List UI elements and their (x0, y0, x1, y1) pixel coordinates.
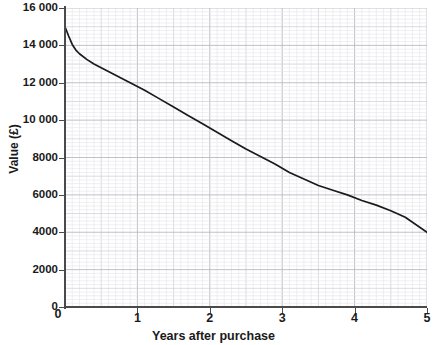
plot-area (65, 8, 427, 307)
x-axis-title: Years after purchase (0, 329, 427, 343)
y-tick-mark (59, 83, 65, 84)
grid-lines (65, 8, 427, 307)
y-tick-label: 6000 (2, 189, 58, 201)
y-tick-label: 4000 (2, 226, 58, 238)
x-tick-label: 5 (417, 312, 435, 325)
y-tick-label: 16 000 (2, 2, 58, 14)
x-tick-label: 4 (345, 312, 365, 325)
y-tick-mark (59, 158, 65, 159)
y-tick-label: 2000 (2, 264, 58, 276)
y-axis-title: Value (£) (7, 109, 21, 189)
y-tick-mark (59, 195, 65, 196)
y-tick-mark (59, 270, 65, 271)
y-tick-mark (59, 45, 65, 46)
x-tick-label: 3 (272, 312, 292, 325)
y-tick-mark (59, 8, 65, 9)
x-tick-label: 2 (200, 312, 220, 325)
x-tick-label: 1 (127, 312, 147, 325)
x-axis-line (64, 306, 427, 308)
x-tick-label: 0 (48, 308, 68, 321)
y-tick-mark (59, 232, 65, 233)
y-tick-label: 12 000 (2, 77, 58, 89)
y-tick-mark (59, 120, 65, 121)
y-tick-label: 14 000 (2, 39, 58, 51)
